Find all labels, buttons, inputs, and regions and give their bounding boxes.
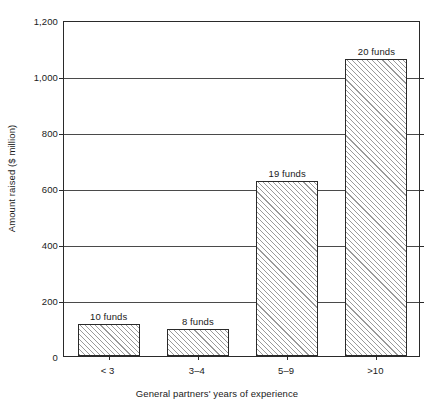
bar-value-label: 8 funds bbox=[182, 316, 214, 327]
y-axis-tick-mark bbox=[59, 190, 64, 191]
x-axis-tick-mark bbox=[198, 356, 199, 360]
y-axis-tick-mark bbox=[419, 78, 424, 79]
bar-value-label: 19 funds bbox=[269, 168, 306, 179]
y-axis-tick-label: 1,000 bbox=[20, 72, 58, 83]
bar bbox=[167, 329, 229, 356]
y-axis-tick-label: 0 bbox=[20, 352, 58, 363]
x-axis-category-label: 3–4 bbox=[189, 365, 205, 376]
plot-area: 10 funds8 funds19 funds20 funds bbox=[63, 21, 420, 357]
bar bbox=[256, 181, 318, 356]
y-axis-tick-label: 1,200 bbox=[20, 16, 58, 27]
bar-value-label: 20 funds bbox=[358, 46, 395, 57]
x-axis-category-label: < 3 bbox=[101, 365, 115, 376]
y-axis-tick-mark bbox=[59, 302, 64, 303]
bar bbox=[78, 324, 140, 356]
y-axis-tick-mark bbox=[419, 190, 424, 191]
y-axis-tick-mark bbox=[419, 246, 424, 247]
y-axis-title-text: Amount raised ($ million) bbox=[7, 125, 18, 233]
bar-chart: Amount raised ($ million) 02004006008001… bbox=[0, 0, 434, 408]
x-axis-title: General partners' years of experience bbox=[0, 388, 434, 399]
y-axis-tick-mark bbox=[59, 246, 64, 247]
y-axis-tick-mark bbox=[419, 302, 424, 303]
y-axis-tick-mark bbox=[59, 78, 64, 79]
y-axis-title: Amount raised ($ million) bbox=[2, 0, 22, 357]
bar-value-label: 10 funds bbox=[90, 311, 127, 322]
x-axis-category-label: 5–9 bbox=[278, 365, 294, 376]
x-axis-category-label: >10 bbox=[367, 365, 383, 376]
y-axis-tick-mark bbox=[419, 134, 424, 135]
y-axis-tick-mark bbox=[59, 134, 64, 135]
y-axis-tick-label: 400 bbox=[20, 240, 58, 251]
x-axis-title-text: General partners' years of experience bbox=[136, 388, 298, 399]
bar bbox=[345, 59, 407, 356]
y-axis-tick-label: 600 bbox=[20, 184, 58, 195]
x-axis-tick-mark bbox=[287, 356, 288, 360]
x-axis-tick-mark bbox=[109, 356, 110, 360]
y-axis-tick-label: 200 bbox=[20, 296, 58, 307]
x-axis-tick-mark bbox=[376, 356, 377, 360]
y-axis-tick-label: 800 bbox=[20, 128, 58, 139]
